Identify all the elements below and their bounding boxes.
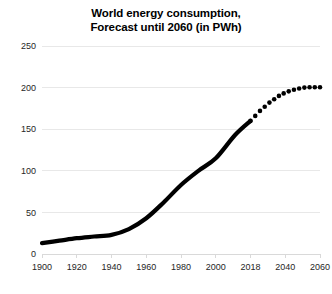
y-axis-tick-label: 0 xyxy=(31,249,36,259)
forecast-data-point xyxy=(262,104,267,109)
x-axis-tick-label: 1900 xyxy=(32,262,52,272)
historical-data-line xyxy=(42,121,251,243)
forecast-data-point xyxy=(286,89,291,94)
x-axis-tick-label: 1960 xyxy=(136,262,156,272)
x-axis-tick-label: 1980 xyxy=(171,262,191,272)
forecast-data-point xyxy=(281,91,286,96)
data-series xyxy=(42,85,322,243)
chart-container: World energy consumption, Forecast until… xyxy=(0,0,332,294)
y-axis-tick-label: 200 xyxy=(21,83,36,93)
y-axis-tick-label: 100 xyxy=(21,166,36,176)
chart-plot-area: 050100150200250 190019201940196019802000… xyxy=(0,0,332,294)
forecast-data-point xyxy=(258,109,263,114)
forecast-data-point xyxy=(272,97,277,102)
x-axis-tick-label: 2018 xyxy=(240,262,260,272)
forecast-data-point xyxy=(253,114,258,119)
forecast-data-point xyxy=(307,85,312,90)
forecast-data-point xyxy=(248,119,253,124)
gridlines xyxy=(42,46,320,254)
x-axis-tick-label: 2040 xyxy=(275,262,295,272)
x-axis-tick-labels: 190019201940196019802000201820402060 xyxy=(32,262,330,272)
y-axis-tick-labels: 050100150200250 xyxy=(21,41,36,259)
forecast-data-point xyxy=(297,86,302,91)
x-axis-tick-label: 1940 xyxy=(101,262,121,272)
forecast-data-point xyxy=(318,85,323,90)
y-axis-tick-label: 150 xyxy=(21,124,36,134)
forecast-data-point xyxy=(312,85,317,90)
y-axis-tick-label: 250 xyxy=(21,41,36,51)
forecast-data-point xyxy=(267,100,272,105)
x-axis-tick-label: 2060 xyxy=(310,262,330,272)
forecast-data-point xyxy=(302,85,307,90)
x-axis-tick-label: 2000 xyxy=(206,262,226,272)
x-axis xyxy=(42,254,320,258)
x-axis-tick-label: 1920 xyxy=(67,262,87,272)
y-axis-tick-label: 50 xyxy=(26,208,36,218)
forecast-data-point xyxy=(277,94,282,99)
forecast-data-point xyxy=(292,87,297,92)
